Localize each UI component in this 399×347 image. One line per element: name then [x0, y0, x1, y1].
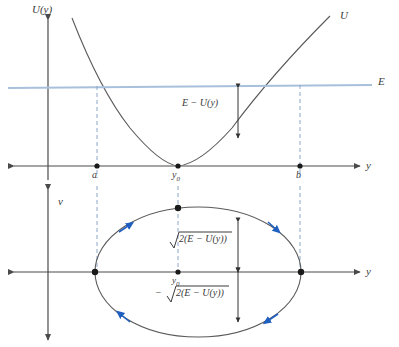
- point-b-dot: [297, 163, 302, 168]
- lower-plot-group: [14, 186, 360, 340]
- orbit-direction-arrow-lower-left: [119, 313, 130, 322]
- point-y0-subscript: 0: [176, 175, 180, 183]
- point-a-label: a: [92, 170, 97, 180]
- energy-level-label: E: [378, 76, 385, 87]
- lower-amplitude-label: 2(E − U(y)): [176, 288, 224, 298]
- upper-y-axis-label: U(y): [32, 4, 52, 15]
- potential-energy-curve: [72, 16, 330, 166]
- orbit-direction-arrow-lower-right: [266, 314, 278, 322]
- energy-level-line: [8, 85, 372, 88]
- lower-amplitude-sign: −: [155, 288, 162, 298]
- point-b-label: b: [296, 170, 301, 180]
- upper-amplitude-label: 2(E − U(y)): [179, 234, 227, 244]
- potential-curve-label: U: [340, 10, 348, 21]
- point-y0-label: y0: [172, 170, 180, 183]
- orbit-center-dot: [175, 269, 180, 274]
- lower-x-axis-label: y: [366, 266, 371, 277]
- orbit-right-vertex-dot: [298, 269, 304, 275]
- point-a-dot: [94, 163, 99, 168]
- orbit-top-vertex-dot: [175, 205, 181, 211]
- upper-x-axis-label: y: [366, 160, 371, 171]
- orbit-left-vertex-dot: [92, 269, 98, 275]
- orbit-direction-arrow-upper-right: [268, 222, 278, 231]
- point-y0-dot: [175, 163, 180, 168]
- orbit-direction-arrow-upper-left: [119, 224, 131, 232]
- energy-gap-label: E − U(y): [182, 98, 218, 108]
- physics-figure: U(y) U E E − U(y) a y0 b y v y 2(E − U(y…: [0, 0, 399, 347]
- lower-v-axis-label: v: [58, 196, 63, 207]
